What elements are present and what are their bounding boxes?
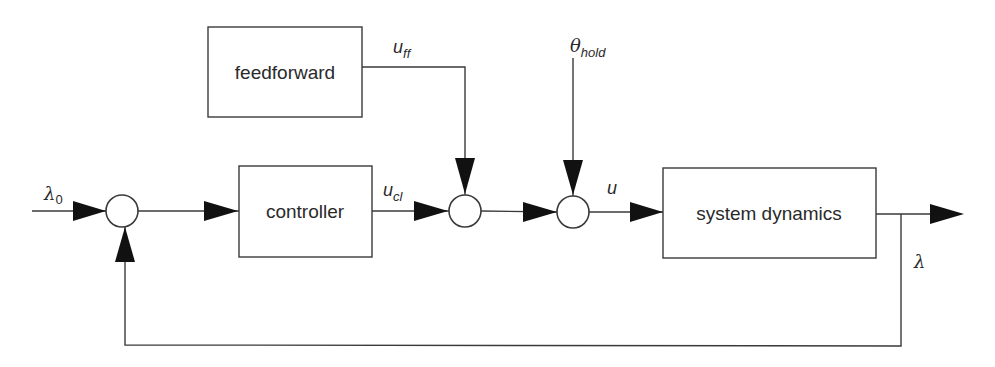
controller-signal-label: ucl — [383, 180, 404, 204]
svg-text:u: u — [607, 178, 617, 198]
feedforward-signal-label: uff — [393, 37, 412, 61]
controller-input-arrow-icon — [204, 201, 238, 221]
feedforward-arrow-icon — [455, 158, 475, 194]
svg-text:θhold: θhold — [570, 35, 606, 60]
reference-signal-label: λ0 — [43, 183, 63, 207]
output-signal-label: λ — [913, 251, 925, 272]
feedforward-label: feedforward — [235, 62, 335, 83]
plant-input-signal-label: u — [607, 178, 617, 198]
output-arrow-icon — [930, 204, 964, 224]
reference-arrow-icon — [73, 201, 106, 221]
svg-text:λ0: λ0 — [43, 183, 63, 207]
block-diagram: feedforward controller system dynamics λ… — [0, 0, 995, 367]
feedforward-block: feedforward — [208, 27, 362, 117]
combined-command-arrow-icon — [523, 202, 557, 222]
controller-block: controller — [239, 166, 372, 257]
system-dynamics-block: system dynamics — [663, 168, 876, 258]
controller-label: controller — [266, 201, 345, 222]
sum-junction-reference-feedback — [106, 195, 138, 227]
plant-input-arrow-icon — [630, 202, 663, 222]
hold-arrow-icon — [563, 160, 583, 195]
system-dynamics-label: system dynamics — [696, 203, 842, 224]
hold-signal-label: θhold — [570, 35, 606, 60]
controller-output-arrow-icon — [414, 201, 448, 221]
svg-text:ucl: ucl — [383, 180, 404, 204]
feedforward-output-wire — [362, 67, 465, 195]
svg-text:uff: uff — [393, 37, 412, 61]
feedback-arrow-icon — [115, 227, 135, 262]
sum-junction-feedforward-controller — [449, 195, 481, 227]
sum-junction-hold — [557, 196, 589, 228]
svg-text:λ: λ — [913, 251, 925, 272]
